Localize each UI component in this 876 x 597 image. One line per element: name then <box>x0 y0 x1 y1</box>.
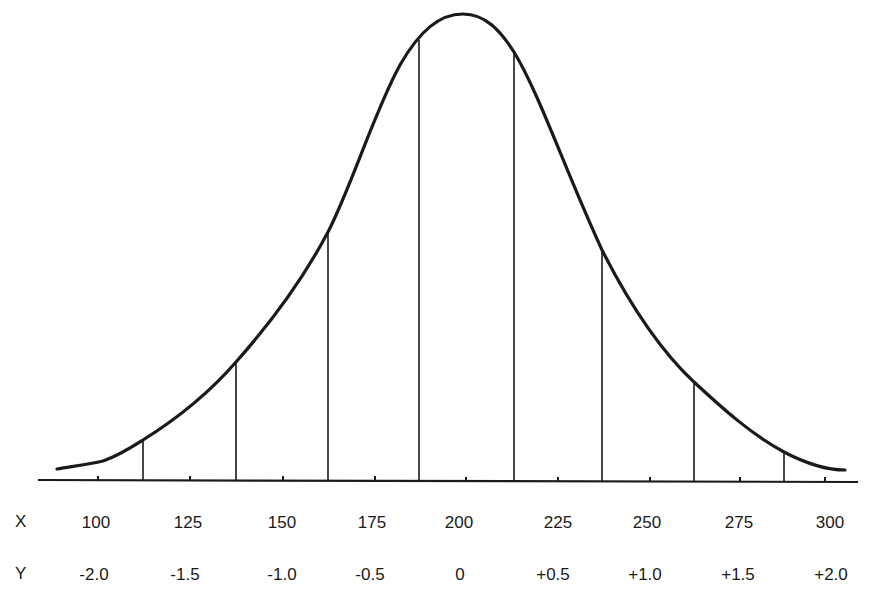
y-row-label: Y <box>15 564 26 584</box>
y-tick-label: +1.0 <box>628 565 662 585</box>
y-tick-label: -0.5 <box>355 565 384 585</box>
x-tick-label: 300 <box>816 513 844 533</box>
x-tick-label: 250 <box>633 513 661 533</box>
y-tick-label: +1.5 <box>721 565 755 585</box>
y-tick-label: -1.0 <box>267 565 296 585</box>
normal-curve-diagram <box>0 0 876 597</box>
y-tick-label: 0 <box>455 565 464 585</box>
x-tick-label: 275 <box>725 513 753 533</box>
y-tick-label: -2.0 <box>79 565 108 585</box>
bell-curve <box>57 14 845 470</box>
y-tick-label: +2.0 <box>814 565 848 585</box>
x-axis-line <box>38 480 858 482</box>
x-row-label: X <box>15 512 26 532</box>
x-tick-label: 125 <box>174 513 202 533</box>
y-tick-label: +0.5 <box>536 565 570 585</box>
x-tick-label: 200 <box>445 513 473 533</box>
ordinate-lines <box>143 40 784 482</box>
x-tick-label: 150 <box>268 513 296 533</box>
x-tick-label: 100 <box>82 513 110 533</box>
x-tick-label: 175 <box>358 513 386 533</box>
y-tick-label: -1.5 <box>170 565 199 585</box>
x-tick-label: 225 <box>544 513 572 533</box>
